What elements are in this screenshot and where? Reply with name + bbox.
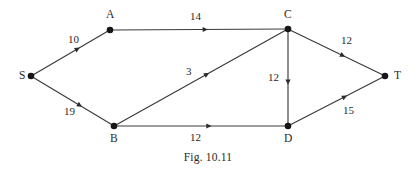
node-label-b: B bbox=[110, 133, 118, 145]
arrowhead-c-d bbox=[285, 80, 290, 85]
edge-label-d-t: 15 bbox=[343, 105, 354, 116]
graph-canvas bbox=[0, 0, 418, 171]
arrowhead-b-d bbox=[206, 123, 211, 128]
node-label-c: C bbox=[284, 9, 292, 21]
node-s bbox=[28, 73, 35, 80]
figure-caption: Fig. 10.11 bbox=[184, 152, 233, 164]
edge-d-t bbox=[290, 77, 382, 125]
edge-b-c bbox=[116, 30, 285, 124]
node-label-s: S bbox=[19, 70, 26, 82]
edge-s-b bbox=[33, 77, 111, 124]
edge-c-t bbox=[290, 30, 382, 75]
node-a bbox=[107, 27, 114, 34]
node-d bbox=[285, 123, 292, 130]
edge-label-c-t: 12 bbox=[341, 35, 352, 46]
node-label-a: A bbox=[106, 9, 115, 21]
edge-label-a-c: 14 bbox=[190, 11, 201, 22]
node-c bbox=[285, 26, 292, 33]
edge-a-c bbox=[113, 29, 286, 30]
arrowheads-layer bbox=[74, 27, 347, 129]
figure-container: SABCDT 101914312121215 Fig. 10.11 bbox=[0, 0, 418, 171]
node-label-d: D bbox=[284, 133, 293, 145]
edge-label-s-a: 10 bbox=[68, 34, 79, 45]
nodes-layer bbox=[28, 26, 389, 130]
edge-label-b-c: 3 bbox=[186, 66, 192, 77]
edge-label-c-d: 12 bbox=[268, 72, 279, 83]
edge-label-s-b: 19 bbox=[64, 106, 75, 117]
node-label-t: T bbox=[394, 70, 401, 82]
edge-label-b-d: 12 bbox=[190, 132, 201, 143]
node-b bbox=[111, 123, 118, 130]
edges-layer bbox=[33, 29, 382, 126]
arrowhead-a-c bbox=[203, 27, 208, 32]
node-t bbox=[382, 73, 389, 80]
